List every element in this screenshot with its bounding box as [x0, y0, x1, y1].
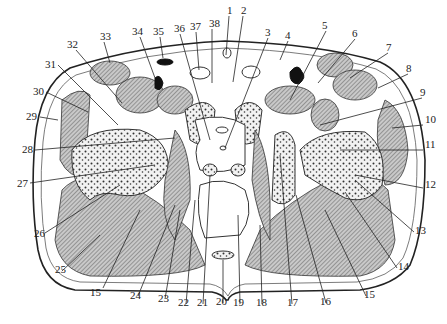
label-33: 33: [100, 30, 112, 42]
label-11: 11: [425, 138, 436, 150]
femoral-artery-left: [157, 59, 173, 65]
label-8: 8: [406, 62, 412, 74]
ischium-right: [272, 132, 295, 204]
label-15: 15: [364, 288, 376, 300]
rectum: [198, 181, 249, 238]
label-15b: 15: [90, 286, 102, 298]
label-1: 1: [227, 4, 233, 16]
label-13: 13: [415, 224, 427, 236]
label-26: 26: [34, 227, 46, 239]
pectineus-right: [311, 99, 339, 131]
label-2: 2: [241, 4, 247, 16]
label-20: 20: [216, 295, 228, 307]
label-12: 12: [425, 178, 436, 190]
label-27: 27: [17, 177, 29, 189]
spermatic-cord-left: [190, 67, 210, 79]
label-28: 28: [22, 143, 34, 155]
label-24: 24: [130, 289, 142, 301]
label-16: 16: [320, 295, 332, 307]
label-4: 4: [285, 29, 291, 41]
seminal-vesicle-left: [203, 164, 217, 176]
label-25: 25: [55, 263, 67, 275]
label-37: 37: [190, 20, 202, 32]
label-17: 17: [287, 296, 299, 308]
coccyx: [212, 251, 234, 259]
label-35: 35: [153, 25, 165, 37]
label-6: 6: [352, 27, 358, 39]
label-21: 21: [197, 296, 208, 308]
pelvis-cross-section-diagram: 1 2 3 4 5 6 7 8 9 10 11 12 13 14 15 16 1…: [0, 0, 447, 324]
label-23: 23: [158, 292, 170, 304]
spermatic-cord-right: [242, 66, 260, 78]
label-19: 19: [233, 296, 245, 308]
label-5: 5: [322, 19, 328, 31]
label-22: 22: [178, 296, 189, 308]
label-32: 32: [67, 38, 78, 50]
label-18: 18: [256, 296, 268, 308]
label-30: 30: [33, 85, 45, 97]
label-29: 29: [26, 110, 38, 122]
bladder-lumen: [216, 127, 228, 133]
label-34: 34: [132, 25, 144, 37]
label-31: 31: [45, 58, 56, 70]
label-38: 38: [209, 17, 221, 29]
seminal-vesicle-right: [231, 164, 245, 176]
label-9: 9: [420, 86, 426, 98]
label-10: 10: [425, 113, 437, 125]
label-7: 7: [386, 41, 392, 53]
bladder: [195, 117, 245, 172]
penis-dorsal-vessel: [223, 48, 231, 58]
label-3: 3: [265, 26, 271, 38]
label-14: 14: [398, 260, 410, 272]
label-36: 36: [174, 22, 186, 34]
